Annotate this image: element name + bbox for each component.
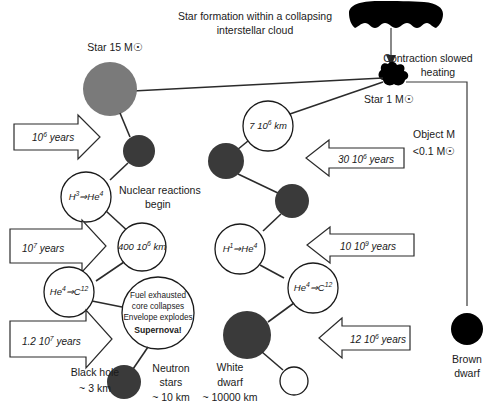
right-arrow-3: 12 106 years [319, 318, 410, 358]
far-right-branch-line [406, 82, 467, 306]
supernova-line-2: core collapses [132, 302, 184, 311]
right-arrow-1: 30 106 years [306, 140, 404, 176]
diagram-title-line1: Star formation within a collapsing [178, 10, 332, 22]
left-giant-size-label: 400 106 km [118, 240, 166, 252]
red-giant-body [223, 311, 271, 359]
star15-label: Star 15 M☉ [87, 41, 143, 53]
contraction-label-line2: heating [421, 66, 456, 78]
neutron-stars-label-line3: ~ 10 km [152, 391, 190, 403]
white-dwarf-label-line1: White [217, 361, 244, 373]
protostar-icon [379, 62, 409, 86]
brown-dwarf-label-line1: Brown [452, 353, 482, 365]
left-arrow-3: 1.2 107 years [10, 310, 112, 368]
white-dwarf-label-line3: ~ 10000 km [202, 391, 257, 403]
object-m-label-line2: <0.1 M☉ [413, 145, 455, 157]
diagram-title-line2: interstellar cloud [217, 24, 294, 36]
connector-protostar-to-star15 [133, 78, 383, 91]
nuclear-reactions-note-line2: begin [145, 198, 171, 210]
object-m-label-line1: Object M [413, 128, 455, 140]
connector-body1-to-body2 [238, 174, 280, 194]
black-hole-label-line2: ~ 3 km [79, 382, 111, 394]
left-arrow-1: 106 years [14, 115, 100, 159]
left-arrow-2: 107 years [10, 220, 106, 272]
supernova-line-3: Envelope explodes [123, 313, 192, 322]
right-reaction1-label: H1⇒He4 [223, 242, 258, 254]
neutron-stars-label-line2: stars [160, 376, 183, 388]
left-arrow-1-label: 106 years [32, 131, 74, 143]
right-arrow-3-label: 12 106 years [350, 333, 406, 345]
connector-star15-to-contracting [120, 113, 130, 137]
left-arrow-2-label: 107 years [22, 242, 64, 254]
nuclear-reactions-note-line1: Nuclear reactions [119, 184, 201, 196]
connector-contracting-to-reaction1 [110, 163, 128, 180]
stellar-evolution-diagram: Star formation within a collapsing inter… [0, 0, 491, 416]
neutron-stars-label-line1: Neutron [152, 362, 190, 374]
connector-right-reaction1-to-reaction2 [260, 265, 284, 278]
left-contracting-body [123, 135, 155, 167]
connector-giant-to-reaction2 [96, 262, 124, 281]
supernova-line-1: Fuel exhausted [130, 291, 186, 300]
connector-right-reaction2-to-giant [268, 303, 294, 322]
connector-body2-to-reaction1 [263, 214, 281, 231]
brown-dwarf-body [451, 313, 483, 345]
interstellar-cloud-icon [349, 1, 443, 28]
black-hole-label-line1: Black hole [71, 366, 120, 378]
left-reaction1-label: H3⇒He4 [69, 190, 104, 202]
sun-evolving-body [275, 184, 309, 218]
right-arrow-2-label: 10 109 years [340, 240, 396, 252]
right-arrow-2: 10 109 years [307, 227, 414, 263]
right-arrow-1-label: 30 106 years [338, 153, 394, 165]
protostar-label: Star 1 M☉ [364, 93, 414, 105]
star15-body [83, 62, 137, 116]
connector-giant-to-white-dwarf [262, 352, 283, 370]
white-dwarf-body [280, 367, 308, 395]
supernova-bold-label: Supernova! [134, 325, 181, 335]
contraction-label-line1: Contraction slowed [383, 52, 472, 64]
white-dwarf-label-line2: dwarf [217, 376, 243, 388]
brown-dwarf-label-line2: dwarf [454, 367, 480, 379]
diagram-canvas: Star formation within a collapsing inter… [0, 0, 491, 416]
connector-reaction2-to-supernova [92, 301, 122, 307]
